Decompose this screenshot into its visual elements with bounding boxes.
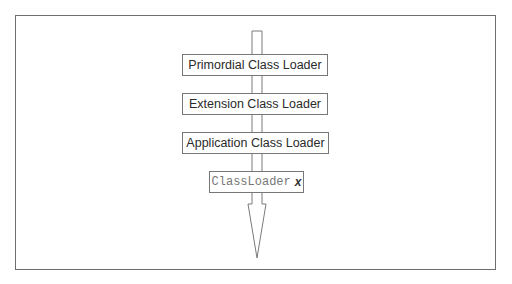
box-label-code: ClassLoader <box>212 175 291 189</box>
box-label: Application Class Loader <box>186 136 324 150</box>
box-label-variable: x <box>295 175 302 189</box>
extension-class-loader-box: Extension Class Loader <box>182 93 328 115</box>
primordial-class-loader-box: Primordial Class Loader <box>182 54 328 76</box>
custom-class-loader-box: ClassLoader x <box>209 171 304 193</box>
application-class-loader-box: Application Class Loader <box>182 132 329 154</box>
box-label: Extension Class Loader <box>189 97 321 111</box>
box-label: Primordial Class Loader <box>188 58 321 72</box>
